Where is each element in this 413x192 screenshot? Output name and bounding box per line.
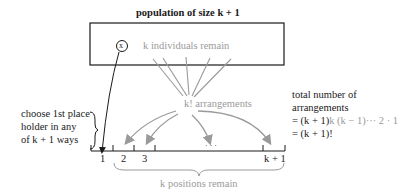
formula-prefix: = (k + 1): [292, 115, 329, 126]
left-brace: [90, 112, 98, 149]
right-note-line-2: arrangements: [292, 101, 349, 114]
right-note-formula-1: = (k + 1)k (k − 1)··· 2 · 1: [292, 114, 398, 127]
position-label-3: 3: [142, 152, 147, 165]
positions-brace-label: k positions remain: [160, 177, 238, 190]
arrangement-arrows: [126, 111, 270, 143]
positions-brace: [114, 163, 284, 176]
element-label: x: [119, 39, 123, 52]
positions-axis: [91, 145, 285, 151]
right-note-line-1: total number of: [292, 88, 357, 101]
positions-ellipsis: · · ·: [205, 139, 217, 152]
left-note-line-1: choose 1st place: [21, 107, 90, 120]
arrangements-label: k! arrangements: [184, 97, 252, 110]
right-note-formula-2: = (k + 1)!: [292, 127, 333, 140]
left-note-line-2: holder in any: [21, 120, 76, 133]
position-label-1: 1: [100, 152, 105, 165]
formula-suffix: k (k − 1)··· 2 · 1: [329, 115, 398, 126]
diagram-title: population of size k + 1: [136, 6, 240, 19]
position-label-last: k + 1: [264, 152, 286, 165]
position-label-2: 2: [121, 152, 126, 165]
remain-label: k individuals remain: [143, 39, 229, 52]
fan-lines: [153, 57, 231, 97]
left-note-line-3: of k + 1 ways: [21, 133, 78, 146]
choose-first-arrow: [102, 52, 119, 152]
